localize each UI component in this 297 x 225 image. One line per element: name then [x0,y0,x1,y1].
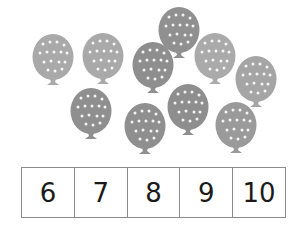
balloon-icon [168,84,209,135]
balloon-icon [195,33,236,84]
balloon-icon [125,103,166,154]
balloon-icon [236,56,277,107]
balloon-icon [133,42,174,93]
number-choice-9[interactable]: 9 [180,168,233,217]
number-choice-6[interactable]: 6 [22,168,75,217]
number-choice-8[interactable]: 8 [128,168,181,217]
number-choice-table: 6 7 8 9 10 [21,167,286,218]
balloon-icon [71,88,112,139]
number-choice-10[interactable]: 10 [233,168,285,217]
balloon-group [0,0,297,160]
balloon-icon [216,102,257,153]
balloon-icon [33,34,74,85]
balloon-icon [83,33,124,84]
number-choice-7[interactable]: 7 [75,168,128,217]
